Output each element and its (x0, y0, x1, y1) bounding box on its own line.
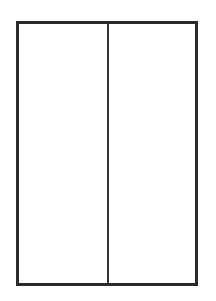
right-panel (109, 24, 196, 283)
outer-rectangle (16, 21, 198, 286)
left-panel (19, 24, 107, 283)
